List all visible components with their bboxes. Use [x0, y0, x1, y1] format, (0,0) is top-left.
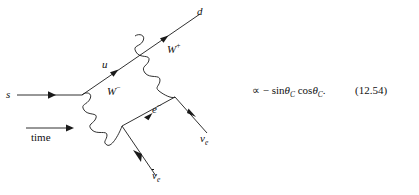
label-neutrino: νe: [200, 133, 208, 144]
neutrino-line: [175, 97, 207, 133]
label-d-quark: d: [197, 6, 203, 17]
period-symbol: .: [323, 84, 326, 96]
equation-expression: ∝ − sinθC cosθC.: [252, 84, 326, 97]
label-w-plus-boson: W+: [167, 44, 180, 55]
equation-number: (12.54): [355, 84, 387, 96]
diagram-canvas: [0, 0, 419, 195]
label-electron: e−: [152, 104, 161, 115]
u-d-quark-line: [82, 14, 200, 95]
w-plus-symbol: W: [167, 43, 176, 55]
minus-symbol: −: [263, 84, 269, 96]
antineutrino-direction-arrow: [133, 150, 142, 162]
label-w-minus-boson: W−: [107, 86, 120, 97]
w-minus-propagator: [82, 93, 122, 145]
u-quark-direction-arrow: [110, 70, 119, 77]
antineutrino-overbar-wrap: ν: [152, 170, 157, 181]
w-minus-symbol: W: [107, 85, 116, 97]
label-s-quark: s: [6, 89, 10, 100]
time-arrow-head: [66, 125, 74, 132]
antineutrino-symbol: ν: [152, 169, 157, 181]
w-plus-charge: +: [176, 41, 180, 50]
neutrino-subscript: e: [205, 138, 208, 147]
feynman-diagram-figure: s u d W+ W− e− νe νe time ∝ − sinθC cosθ…: [0, 0, 419, 195]
electron-charge: −: [157, 101, 161, 110]
theta-1-subscript: C: [290, 90, 295, 99]
s-quark-direction-arrow: [48, 91, 56, 98]
label-time-axis: time: [31, 132, 51, 143]
sin-function: sin: [272, 84, 285, 96]
electron-line: [122, 97, 175, 126]
antineutrino-subscript: e: [157, 175, 160, 184]
label-antineutrino: νe: [152, 170, 160, 181]
antineutrino-line: [122, 126, 156, 176]
label-u-quark: u: [102, 59, 108, 70]
w-minus-charge: −: [116, 83, 120, 92]
proportional-symbol: ∝: [252, 84, 260, 96]
s-quark-line: [17, 91, 82, 98]
cos-function: cos: [298, 84, 313, 96]
overbar-rule: [152, 169, 154, 170]
d-quark-direction-arrow: [160, 36, 169, 43]
